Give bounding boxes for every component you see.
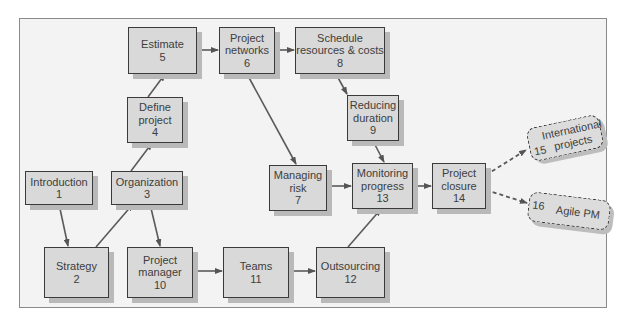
- node-number: 9: [370, 124, 376, 137]
- node-organization[interactable]: Organization 3: [111, 171, 183, 205]
- node-label-line2: risk: [289, 182, 306, 195]
- node-number: 2: [73, 273, 79, 286]
- node-label-line1: Managing: [274, 169, 322, 182]
- node-number: 6: [244, 57, 250, 70]
- node-project-networks[interactable]: Project networks 6: [219, 27, 275, 74]
- node-introduction[interactable]: Introduction 1: [25, 171, 93, 205]
- node-number: 15: [533, 143, 548, 158]
- node-label: Organization: [116, 176, 178, 189]
- node-number: 16: [532, 199, 546, 213]
- node-label-line1: Monitoring: [357, 167, 408, 180]
- edge-9-13: [373, 141, 384, 162]
- node-label-line1: Define: [139, 101, 171, 114]
- node-estimate[interactable]: Estimate 5: [128, 27, 197, 74]
- node-label-line1: Project: [442, 167, 476, 180]
- edge-8-9: [336, 74, 347, 94]
- node-label: Introduction: [30, 176, 87, 189]
- node-number: 11: [250, 273, 261, 286]
- node-teams[interactable]: Teams 11: [223, 247, 289, 298]
- edge-6-7: [247, 74, 296, 164]
- node-project-manager[interactable]: Project manager 10: [127, 247, 193, 298]
- node-label-line2: manager: [138, 266, 181, 279]
- edge-12-13: [348, 209, 381, 247]
- node-label: Teams: [240, 260, 272, 273]
- node-label-line2: networks: [225, 44, 269, 57]
- node-number: 5: [159, 51, 165, 64]
- node-number: 12: [344, 273, 356, 286]
- node-label-line2: closure: [441, 180, 476, 193]
- edge-3-4: [131, 143, 152, 171]
- node-label: Estimate: [141, 38, 184, 51]
- node-label-line2: resources & costs: [296, 44, 383, 57]
- node-define-project[interactable]: Define project 4: [127, 97, 183, 143]
- edge-3-10: [150, 204, 160, 246]
- edge-2-3: [96, 204, 133, 247]
- node-number: 1: [56, 188, 62, 201]
- node-managing-risk[interactable]: Managing risk 7: [269, 165, 327, 211]
- edge-14-15: [486, 150, 526, 175]
- node-label: Outsourcing: [321, 260, 380, 273]
- node-number: 4: [152, 126, 158, 139]
- node-project-closure[interactable]: Project closure 14: [432, 163, 486, 209]
- node-monitoring-progress[interactable]: Monitoring progress 13: [352, 163, 413, 209]
- node-number: 14: [453, 192, 465, 205]
- node-number: 10: [154, 279, 166, 292]
- node-label-line1: Project: [143, 254, 177, 267]
- node-number: 3: [144, 188, 150, 201]
- node-outsourcing[interactable]: Outsourcing 12: [316, 247, 385, 298]
- node-number: 7: [295, 194, 301, 207]
- node-number: 8: [337, 57, 343, 70]
- node-label: Agile PM: [548, 203, 607, 222]
- node-strategy[interactable]: Strategy 2: [44, 247, 109, 298]
- edge-1-2: [59, 204, 68, 246]
- node-reducing-duration[interactable]: Reducing duration 9: [347, 95, 399, 141]
- node-label: Strategy: [56, 260, 97, 273]
- node-label-line2: project: [138, 114, 171, 127]
- node-schedule-resources-costs[interactable]: Schedule resources & costs 8: [295, 27, 385, 74]
- node-label-line2: progress: [361, 180, 404, 193]
- node-label-line1: Project: [230, 32, 264, 45]
- node-label-line2: duration: [353, 112, 393, 125]
- node-number: 13: [376, 192, 388, 205]
- edge-14-16: [486, 190, 527, 203]
- edge-4-5: [148, 74, 165, 97]
- node-label-line1: Schedule: [317, 32, 363, 45]
- node-label-line1: Reducing: [350, 99, 396, 112]
